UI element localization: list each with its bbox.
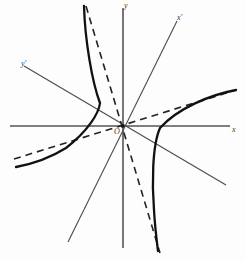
hyperbola-branch-right [153, 90, 236, 251]
origin-label: O [114, 128, 120, 136]
hyperbola-figure: y x' y' x O [0, 0, 246, 261]
axis-label-y: y [124, 2, 128, 10]
figure-canvas [0, 0, 246, 261]
axis-label-x: x [232, 126, 236, 134]
origin-point [121, 124, 124, 127]
axis-label-y-prime: y' [21, 60, 26, 68]
axis-label-x-prime: x' [177, 14, 182, 22]
